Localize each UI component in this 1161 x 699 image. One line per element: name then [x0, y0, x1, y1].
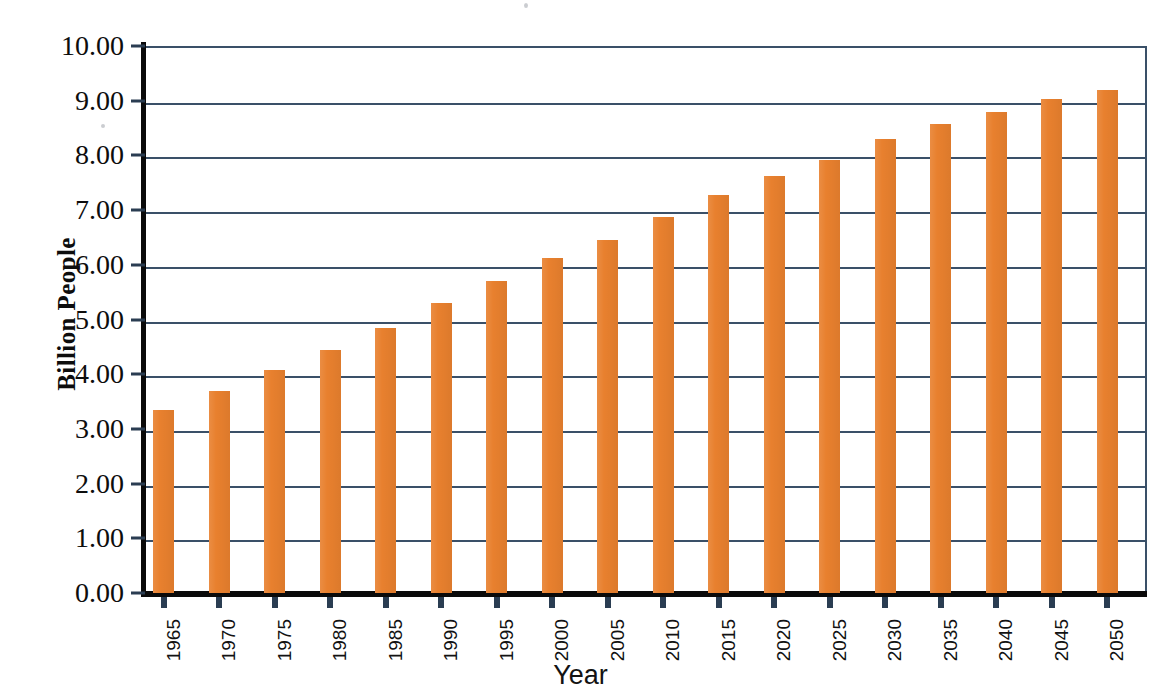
y-axis-tick-label: 5.00 — [0, 306, 124, 334]
bars-layer — [146, 46, 1145, 593]
y-axis-tick-mark — [131, 263, 145, 266]
y-axis-tick-mark — [131, 427, 145, 430]
x-axis-tick-mark — [438, 597, 444, 608]
bar — [431, 303, 452, 593]
x-axis-tick-mark — [549, 597, 555, 608]
x-axis-tick-mark — [771, 597, 777, 608]
x-axis-tick-mark — [272, 597, 278, 608]
y-axis-tick-label: 1.00 — [0, 524, 124, 552]
bar — [819, 160, 840, 593]
scan-artifact — [524, 3, 528, 8]
y-axis-tick-label: 0.00 — [0, 579, 124, 607]
y-axis-tick-label: 3.00 — [0, 415, 124, 443]
chart-page: Billion People 0.001.002.003.004.005.006… — [0, 0, 1161, 699]
bar — [986, 112, 1007, 593]
y-axis-tick-label: 7.00 — [0, 196, 124, 224]
y-axis-tick-label: 6.00 — [0, 251, 124, 279]
x-axis-tick-mark — [494, 597, 500, 608]
x-axis-tick-mark — [161, 597, 167, 608]
x-axis-tick-mark — [827, 597, 833, 608]
bar — [597, 240, 618, 593]
bar — [320, 350, 341, 593]
y-axis-tick-labels: 0.001.002.003.004.005.006.007.008.009.00… — [0, 0, 134, 699]
bar — [1041, 99, 1062, 593]
x-axis-tick-mark — [1049, 597, 1055, 608]
y-axis-tick-label: 2.00 — [0, 470, 124, 498]
x-axis-tick-mark — [882, 597, 888, 608]
y-axis-tick-label: 10.00 — [0, 32, 124, 60]
y-axis-tick-mark — [131, 373, 145, 376]
y-axis-tick-mark — [131, 537, 145, 540]
x-axis-tick-mark — [327, 597, 333, 608]
y-axis-tick-mark — [131, 154, 145, 157]
bar — [209, 391, 230, 593]
bar — [764, 176, 785, 593]
bar — [153, 410, 174, 593]
x-axis-tick-mark — [716, 597, 722, 608]
y-axis-tick-mark — [131, 45, 145, 48]
bar — [1097, 90, 1118, 593]
y-axis-tick-label: 9.00 — [0, 87, 124, 115]
bar — [653, 217, 674, 593]
x-axis-tick-mark — [383, 597, 389, 608]
y-axis-tick-mark — [131, 318, 145, 321]
x-axis-tick-marks — [146, 597, 1145, 609]
x-axis-title: Year — [0, 660, 1161, 691]
bar — [264, 370, 285, 593]
bar — [875, 139, 896, 593]
x-axis-tick-mark — [605, 597, 611, 608]
bar — [708, 195, 729, 593]
bar — [486, 281, 507, 593]
x-axis-tick-mark — [993, 597, 999, 608]
y-axis-tick-label: 4.00 — [0, 360, 124, 388]
y-axis-tick-mark — [131, 99, 145, 102]
x-axis-tick-mark — [660, 597, 666, 608]
bar — [542, 258, 563, 593]
x-axis-tick-mark — [1104, 597, 1110, 608]
x-axis-tick-mark — [216, 597, 222, 608]
bar — [930, 124, 951, 593]
y-axis-tick-label: 8.00 — [0, 141, 124, 169]
y-axis-tick-mark — [131, 209, 145, 212]
y-axis-tick-mark — [131, 592, 145, 595]
y-axis-tick-mark — [131, 482, 145, 485]
x-axis-tick-mark — [938, 597, 944, 608]
bar — [375, 328, 396, 593]
